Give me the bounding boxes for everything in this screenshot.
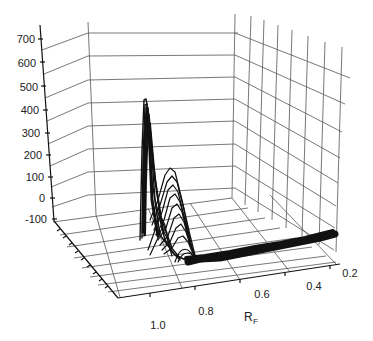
z-tick-700: 700 (17, 33, 35, 45)
x-tick-0.4: 0.4 (306, 280, 321, 292)
x-axis-label-main: R (244, 310, 253, 324)
z-tick-200: 200 (24, 149, 42, 161)
3d-waterfall-chart: 700 600 500 400 300 200 100 0 -100 1.0 0… (0, 0, 373, 341)
z-tick-500: 500 (20, 81, 38, 93)
x-tick-0.8: 0.8 (198, 305, 213, 317)
z-tick-0: 0 (39, 192, 45, 204)
x-tick-0.2: 0.2 (342, 267, 357, 279)
x-axis-label-subscript: F (253, 317, 258, 326)
z-tick-600: 600 (18, 57, 36, 69)
z-tick-100: 100 (26, 171, 44, 183)
z-tick-300: 300 (22, 127, 40, 139)
x-tick-0.6: 0.6 (254, 288, 269, 300)
x-axis-label: R F (244, 310, 258, 326)
z-tick-400: 400 (21, 104, 39, 116)
z-tick-minus100: -100 (25, 213, 47, 225)
back-wall-grid (42, 14, 350, 252)
x-tick-1.0: 1.0 (150, 319, 165, 331)
